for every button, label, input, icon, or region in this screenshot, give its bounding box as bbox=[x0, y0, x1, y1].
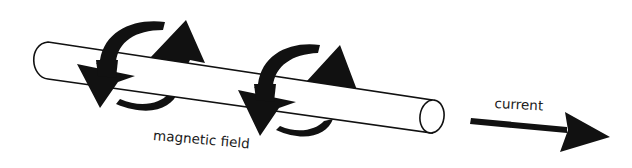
magnetic-field-diagram: magnetic field current bbox=[0, 0, 632, 168]
current-label: current bbox=[494, 95, 543, 114]
current-arrow-icon bbox=[470, 112, 610, 152]
